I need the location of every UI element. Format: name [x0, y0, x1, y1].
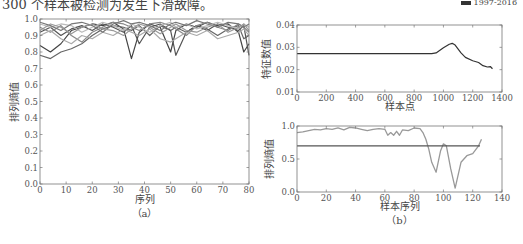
- x-tick-label: 400: [347, 93, 363, 103]
- y-tick-label: 0.0: [24, 179, 38, 189]
- x-tick-label: 0: [294, 93, 299, 103]
- y-tick-label: 0.2: [24, 146, 38, 156]
- y-tick-label: 0.7: [24, 64, 38, 74]
- y-tick-label: 0.6: [24, 80, 38, 90]
- series-line-feature: [297, 43, 492, 68]
- chart-b-top: 02004006008001000120014000.010.020.030.0…: [260, 20, 513, 112]
- chart-a: 010203040506070800.00.10.20.30.40.50.60.…: [8, 14, 254, 219]
- x-tick-label: 200: [318, 93, 334, 103]
- y-tick-label: 0.1: [24, 163, 38, 173]
- x-tick-label: 100: [435, 193, 451, 203]
- x-tick-label: 70: [217, 185, 228, 195]
- y-tick-label: 0.01: [276, 87, 295, 97]
- x-tick-label: 50: [165, 185, 176, 195]
- x-tick-label: 140: [494, 193, 510, 203]
- x-tick-label: 80: [244, 185, 255, 195]
- x-tick-label: 60: [191, 185, 202, 195]
- x-tick-label: 20: [87, 185, 98, 195]
- x-tick-label: 1200: [462, 93, 484, 103]
- x-tick-label: 0: [294, 193, 299, 203]
- panel-label: （a）: [132, 208, 158, 219]
- x-tick-label: 10: [61, 185, 72, 195]
- y-tick-label: 0.5: [24, 97, 38, 107]
- axes-frame: [297, 126, 502, 192]
- y-axis-label: 排列熵值: [263, 139, 275, 179]
- y-tick-label: 0.3: [24, 130, 38, 140]
- y-axis-label: 特征数值: [260, 39, 272, 79]
- y-tick-label: 0.03: [276, 42, 295, 52]
- x-tick-label: 20: [321, 193, 332, 203]
- y-tick-label: 0.9: [24, 31, 38, 41]
- y-tick-label: 0.0: [281, 187, 295, 197]
- x-tick-label: 40: [350, 193, 361, 203]
- y-tick-label: 0.8: [24, 47, 38, 57]
- axes-frame: [297, 25, 502, 92]
- y-axis-label: 排列熵值: [8, 82, 20, 122]
- y-tick-label: 1.0: [24, 14, 38, 24]
- x-tick-label: 120: [465, 193, 481, 203]
- y-tick-label: 1.0: [281, 121, 295, 131]
- x-tick-label: 1000: [433, 93, 455, 103]
- chart-b-bottom: 0204060801001201400.00.51.0样本序列排列熵值（b）: [263, 121, 510, 226]
- y-tick-label: 0.04: [276, 20, 295, 30]
- x-tick-label: 30: [113, 185, 124, 195]
- x-tick-label: 1400: [491, 93, 513, 103]
- x-tick-label: 0: [37, 185, 42, 195]
- x-axis-label: 样本点: [385, 100, 415, 112]
- panel-label: （b）: [386, 215, 412, 226]
- series-line-entropy: [297, 127, 482, 188]
- x-axis-label: 样本序列: [380, 200, 420, 212]
- y-tick-label: 0.02: [276, 65, 295, 75]
- x-axis-label: 序列: [135, 193, 155, 205]
- y-tick-label: 0.4: [24, 113, 38, 123]
- y-tick-label: 0.5: [281, 154, 295, 164]
- figure: 010203040506070800.00.10.20.30.40.50.60.…: [0, 0, 523, 244]
